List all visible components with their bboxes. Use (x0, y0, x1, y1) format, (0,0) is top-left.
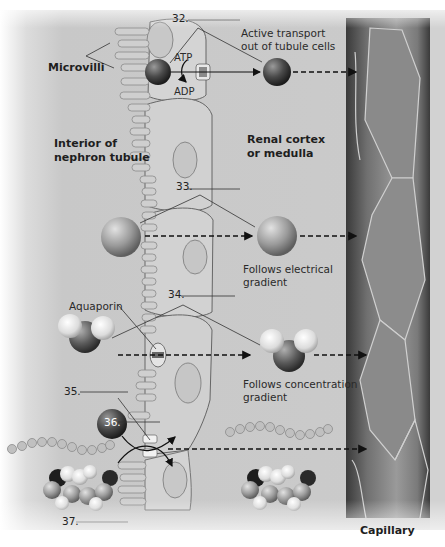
interstitium-label-line1: Renal cortex (247, 133, 325, 146)
blank-37-number: 37. (62, 515, 79, 528)
microvilli-label: Microvilli (48, 61, 104, 74)
cotransporter (143, 435, 157, 443)
active-transport-label-line2: out of tubule cells (241, 40, 335, 53)
interstitium-label-line2: or medulla (247, 147, 313, 160)
aquaporin-label: Aquaporin (69, 300, 123, 313)
lumen-label-line2: nephron tubule (54, 151, 150, 164)
concentration-label-line2: gradient (243, 391, 287, 404)
ion-lumen (101, 217, 141, 257)
concentration-label-line1: Follows concentration (243, 378, 357, 391)
diagram-artwork (0, 0, 445, 547)
capillary (346, 18, 430, 518)
lumen-label-line1: Interior of (54, 137, 117, 150)
ion-in-cell (145, 59, 171, 85)
ion-interstitium (257, 216, 297, 256)
ion-transported (263, 58, 291, 86)
nephron-reabsorption-diagram: 32. Active transport out of tubule cells… (0, 0, 445, 547)
electrical-label-line1: Follows electrical (243, 263, 333, 276)
capillary-label: Capillary (360, 524, 415, 537)
blank-36-number: 36. (104, 416, 121, 429)
blank-32-number: 32. (172, 12, 189, 25)
electrical-label-line2: gradient (243, 276, 287, 289)
active-transport-label-line1: Active transport (241, 27, 325, 40)
atp-label: ATP (174, 51, 192, 64)
adp-label: ADP (174, 85, 195, 98)
blank-34-number: 34. (168, 288, 185, 301)
blank-33-number: 33. (176, 180, 193, 193)
blank-35-number: 35. (64, 385, 81, 398)
